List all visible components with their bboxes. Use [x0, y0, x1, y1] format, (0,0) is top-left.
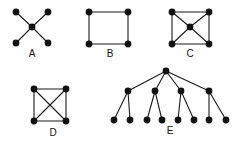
e-leaf-2-node	[127, 117, 134, 124]
graph-edge	[147, 91, 155, 120]
graph-c: C	[169, 9, 213, 59]
c-bottom-right-node	[206, 41, 213, 48]
a-bottom-left-node	[13, 40, 20, 47]
b-bottom-left-node	[86, 41, 93, 48]
a-bottom-right-node	[45, 40, 52, 47]
graph-a-nodes	[13, 9, 52, 47]
graph-edge	[190, 27, 209, 44]
graph-e-edges	[114, 71, 226, 120]
d-top-left-node	[31, 86, 38, 93]
e-leaf-6-node	[191, 117, 198, 124]
graph-edge	[166, 71, 209, 91]
graph-edge	[172, 12, 190, 27]
graph-d-edges	[34, 89, 66, 121]
d-bottom-left-node	[31, 118, 38, 125]
c-top-left-node	[169, 9, 176, 16]
c-bottom-left-node	[169, 41, 176, 48]
graph-e: E	[111, 68, 230, 136]
graph-edge	[178, 91, 181, 120]
d-top-right-node	[63, 86, 70, 93]
graphs-layer: ABCDE	[13, 9, 230, 138]
b-bottom-right-node	[125, 41, 132, 48]
graph-d: D	[31, 86, 70, 138]
graph-edge	[172, 27, 190, 44]
e-leaf-5-node	[175, 117, 182, 124]
e-branch-2-node	[152, 88, 159, 95]
e-branch-3-node	[178, 88, 185, 95]
graph-b-edges	[89, 12, 128, 44]
a-top-left-node	[13, 9, 20, 16]
b-top-left-node	[86, 9, 93, 16]
graph-b: B	[86, 9, 132, 59]
graph-edge	[181, 91, 194, 120]
e-leaf-3-node	[144, 117, 151, 124]
graph-label-d: D	[49, 127, 56, 138]
b-top-right-node	[125, 9, 132, 16]
e-leaf-4-node	[159, 117, 166, 124]
d-bottom-right-node	[63, 118, 70, 125]
graph-a: A	[13, 9, 52, 59]
e-branch-4-node	[206, 88, 213, 95]
graph-label-c: C	[186, 48, 193, 59]
e-leaf-7-node	[206, 117, 213, 124]
c-top-right-node	[206, 9, 213, 16]
graph-edge	[114, 91, 128, 120]
a-center-node	[29, 24, 36, 31]
graph-edge	[155, 91, 162, 120]
graph-edge	[190, 12, 209, 27]
c-center-node	[187, 24, 194, 31]
e-leaf-1-node	[111, 117, 118, 124]
e-root-node	[163, 68, 170, 75]
graph-label-a: A	[29, 48, 36, 59]
graph-edge	[128, 91, 130, 120]
graph-b-nodes	[86, 9, 132, 48]
a-top-right-node	[45, 9, 52, 16]
graph-label-e: E	[167, 125, 174, 136]
graph-figure-canvas: ABCDE	[0, 0, 243, 146]
e-branch-1-node	[125, 88, 132, 95]
graph-label-b: B	[107, 48, 114, 59]
graph-edge	[209, 91, 226, 120]
e-leaf-8-node	[223, 117, 230, 124]
